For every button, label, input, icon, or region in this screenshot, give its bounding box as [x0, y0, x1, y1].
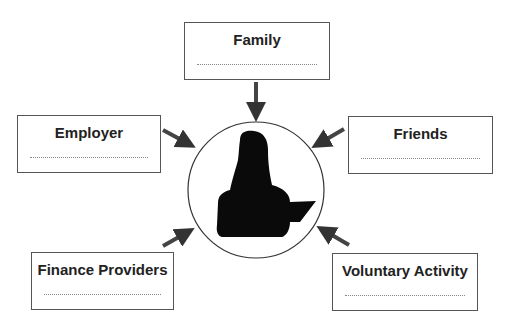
friends-box: Friends: [348, 116, 493, 174]
finance-box: Finance Providers: [31, 252, 174, 310]
family-title: Family: [185, 31, 329, 48]
friends-title: Friends: [349, 125, 492, 142]
voluntary-box: Voluntary Activity: [332, 253, 478, 311]
voluntary-title: Voluntary Activity: [333, 262, 477, 279]
arrow-friends: [320, 129, 344, 143]
employer-blank-line[interactable]: [30, 157, 148, 158]
employer-box: Employer: [17, 115, 161, 173]
friends-blank-line[interactable]: [361, 158, 480, 159]
family-box: Family: [184, 22, 330, 80]
arrow-finance: [163, 233, 186, 246]
voluntary-blank-line[interactable]: [345, 295, 465, 296]
employer-title: Employer: [18, 124, 160, 141]
finance-blank-line[interactable]: [44, 294, 161, 295]
family-blank-line[interactable]: [197, 64, 317, 65]
arrow-voluntary: [325, 231, 349, 245]
finance-title: Finance Providers: [32, 261, 173, 278]
arrow-employer: [163, 130, 187, 143]
